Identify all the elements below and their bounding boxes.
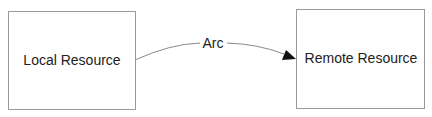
diagram-canvas: Local Resource Remote Resource Arc bbox=[0, 0, 432, 117]
node-label: Remote Resource bbox=[305, 50, 418, 66]
arrowhead-icon bbox=[282, 50, 296, 60]
edge-arc[interactable]: Arc bbox=[135, 35, 296, 60]
node-local-resource[interactable]: Local Resource bbox=[9, 12, 136, 110]
node-label: Local Resource bbox=[23, 52, 120, 68]
node-remote-resource[interactable]: Remote Resource bbox=[297, 10, 425, 109]
edge-label: Arc bbox=[203, 35, 224, 51]
edge-line-end bbox=[227, 43, 284, 54]
edge-line-start bbox=[135, 43, 200, 60]
